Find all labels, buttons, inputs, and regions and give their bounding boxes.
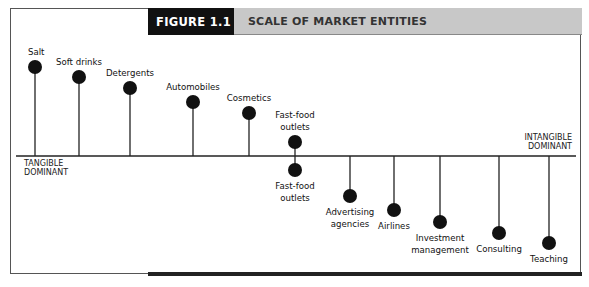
intangible-dominant-label: DOMINANT bbox=[528, 142, 572, 151]
item-label: agencies bbox=[331, 219, 370, 229]
tangible-dominant-label: DOMINANT bbox=[24, 168, 68, 177]
item-label: outlets bbox=[280, 122, 310, 132]
scale-item: Detergents bbox=[106, 68, 155, 156]
item-label: Fast-food bbox=[275, 181, 314, 191]
dot-marker bbox=[433, 215, 447, 229]
item-label: Cosmetics bbox=[227, 93, 272, 103]
item-label: Detergents bbox=[106, 68, 155, 78]
dot-marker bbox=[28, 60, 42, 74]
dot-marker bbox=[343, 189, 357, 203]
item-label: Fast-food bbox=[275, 110, 314, 120]
dot-marker bbox=[288, 163, 302, 177]
item-label: Consulting bbox=[476, 244, 522, 254]
dot-marker bbox=[542, 236, 556, 250]
dot-marker bbox=[492, 226, 506, 240]
scale-item: Advertisingagencies bbox=[326, 156, 375, 229]
dot-marker bbox=[186, 95, 200, 109]
tangible-dominant-label: TANGIBLE bbox=[23, 159, 63, 168]
item-label: outlets bbox=[280, 193, 310, 203]
scale-item: Teaching bbox=[529, 156, 568, 264]
dot-marker bbox=[387, 203, 401, 217]
scale-item: Investmentmanagement bbox=[411, 156, 469, 255]
item-label: Automobiles bbox=[166, 82, 220, 92]
item-label: Advertising bbox=[326, 207, 375, 217]
dot-marker bbox=[288, 135, 302, 149]
intangible-dominant-label: INTANGIBLE bbox=[524, 133, 572, 142]
dot-marker bbox=[242, 106, 256, 120]
dot-marker bbox=[123, 81, 137, 95]
item-label: Salt bbox=[28, 47, 45, 57]
item-label: Investment bbox=[416, 233, 465, 243]
item-label: Teaching bbox=[529, 254, 568, 264]
scale-item: Soft drinks bbox=[56, 57, 102, 156]
scale-diagram: TANGIBLEDOMINANTINTANGIBLEDOMINANT SaltS… bbox=[0, 0, 589, 287]
item-label: management bbox=[411, 245, 469, 255]
item-label: Airlines bbox=[378, 221, 410, 231]
scale-item: Fast-foodoutlets bbox=[275, 156, 314, 203]
scale-item: Airlines bbox=[378, 156, 410, 231]
scale-item: Salt bbox=[28, 47, 45, 156]
item-label: Soft drinks bbox=[56, 57, 102, 67]
scale-item: Automobiles bbox=[166, 82, 220, 156]
figure-page: FIGURE 1.1 SCALE OF MARKET ENTITIES TANG… bbox=[0, 0, 589, 287]
dot-marker bbox=[72, 70, 86, 84]
scale-item: Consulting bbox=[476, 156, 522, 254]
scale-item: Cosmetics bbox=[227, 93, 272, 156]
scale-item: Fast-foodoutlets bbox=[275, 110, 314, 156]
